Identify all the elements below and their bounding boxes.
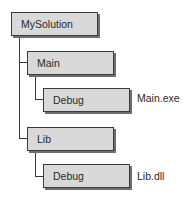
output-file-label-main: Main.exe — [137, 93, 180, 104]
connector-root-to-lib — [19, 138, 27, 139]
folder-node-lib: Lib — [27, 127, 114, 151]
output-file-label-lib: Lib.dll — [137, 171, 164, 182]
connector-main-to-debug — [35, 99, 43, 100]
folder-node-label: Lib — [37, 134, 51, 145]
connector-lib-to-debug — [35, 176, 43, 177]
folder-node-lib-debug: Debug — [43, 164, 130, 188]
connector-main-vertical — [35, 74, 36, 100]
folder-node-mysolution: MySolution — [11, 12, 98, 36]
folder-node-main: Main — [27, 51, 114, 75]
folder-node-label: Debug — [53, 95, 84, 106]
folder-node-label: Main — [37, 58, 60, 69]
connector-root-vertical — [19, 35, 20, 139]
folder-node-main-debug: Debug — [43, 88, 130, 112]
folder-node-label: MySolution — [21, 19, 73, 30]
folder-node-label: Debug — [53, 171, 84, 182]
connector-lib-vertical — [35, 150, 36, 177]
connector-root-to-main — [19, 62, 27, 63]
solution-folder-diagram: MySolution Main Debug Main.exe Lib Debug… — [0, 0, 188, 199]
